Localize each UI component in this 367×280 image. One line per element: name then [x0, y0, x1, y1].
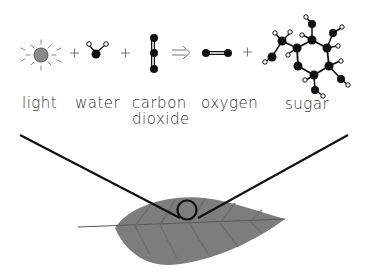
leaf-illustration [78, 197, 285, 265]
label-dioxide: dioxide [132, 112, 190, 126]
co2-molecule-icon [150, 34, 158, 73]
label-oxygen: oxygen [201, 96, 258, 110]
o2-molecule-icon [202, 49, 232, 57]
yields-arrow [172, 46, 190, 59]
sun-icon [21, 40, 61, 70]
glucose-molecule-icon [263, 15, 350, 98]
plus-sign [70, 49, 79, 58]
water-molecule-icon [87, 42, 109, 59]
photosynthesis-diagram [0, 0, 367, 280]
plus-sign [243, 48, 252, 57]
label-water: water [75, 96, 120, 110]
label-sugar: sugar [285, 97, 329, 111]
plus-sign [121, 49, 130, 58]
label-light: light [22, 96, 57, 110]
label-carbon: carbon [132, 96, 187, 110]
